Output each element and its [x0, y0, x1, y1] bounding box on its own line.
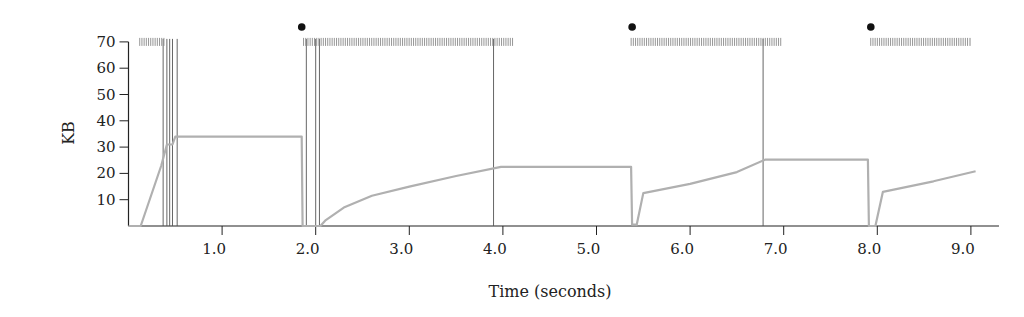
y-axis-ticks: 10203040506070: [96, 33, 128, 209]
transmission-bursts: [140, 38, 970, 46]
tcp-window-chart: 10203040506070 1.02.03.04.05.06.07.08.09…: [0, 0, 1024, 317]
y-tick-label: 20: [96, 164, 115, 182]
burst: [631, 38, 781, 46]
y-tick-label: 60: [96, 59, 115, 77]
y-tick-label: 10: [96, 191, 115, 209]
burst: [304, 38, 513, 46]
event-marker-dot: [867, 23, 875, 31]
x-tick-label: 5.0: [577, 240, 601, 258]
event-markers: [298, 23, 875, 31]
y-axis-label: KB: [59, 121, 78, 145]
x-axis-label: Time (seconds): [488, 282, 611, 301]
event-marker-dot: [298, 23, 306, 31]
x-tick-label: 7.0: [764, 240, 788, 258]
y-tick-label: 70: [96, 33, 115, 51]
x-tick-label: 8.0: [857, 240, 881, 258]
y-tick-label: 50: [96, 86, 115, 104]
x-tick-label: 9.0: [951, 240, 975, 258]
burst: [140, 38, 164, 46]
x-tick-label: 4.0: [483, 240, 507, 258]
x-tick-label: 6.0: [670, 240, 694, 258]
data-series: [129, 137, 976, 226]
x-tick-label: 3.0: [389, 240, 413, 258]
burst: [871, 38, 968, 46]
event-vertical-lines: [163, 39, 763, 226]
event-marker-dot: [628, 23, 636, 31]
x-tick-label: 1.0: [202, 240, 226, 258]
x-tick-label: 2.0: [296, 240, 320, 258]
window-size-line: [129, 137, 976, 226]
x-axis-ticks: 1.02.03.04.05.06.07.08.09.0: [202, 226, 975, 258]
y-tick-label: 40: [96, 112, 115, 130]
y-tick-label: 30: [96, 138, 115, 156]
